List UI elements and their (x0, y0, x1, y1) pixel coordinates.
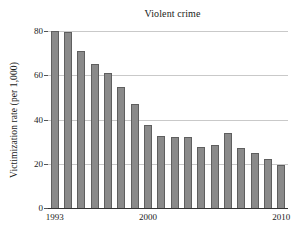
y-tick-label: 40 (8, 115, 48, 125)
bar (117, 87, 125, 208)
bar (91, 64, 99, 208)
bar (51, 31, 59, 208)
x-tick-label: 2000 (139, 212, 157, 222)
y-tick-label: 60 (8, 70, 48, 80)
x-tick-label: 2010 (272, 212, 290, 222)
y-tick-label: 80 (8, 26, 48, 36)
y-tick-label: 0 (8, 203, 48, 213)
x-tick-label: 1993 (46, 212, 64, 222)
bar-series (48, 31, 288, 208)
chart-figure: Violent crime Victimization rate (per 1,… (0, 0, 297, 242)
y-tick-label: 20 (8, 159, 48, 169)
x-axis-line (48, 208, 288, 209)
bar (184, 137, 192, 208)
bar (144, 125, 152, 208)
plot-area (48, 31, 288, 208)
bar (171, 137, 179, 208)
bar (197, 147, 205, 208)
bar (277, 165, 285, 208)
bar (64, 32, 72, 208)
x-axis-ticks: 199320002010 (48, 210, 288, 230)
bar (131, 104, 139, 208)
bar (157, 136, 165, 208)
y-axis-ticks: 020406080 (0, 31, 48, 208)
bar (104, 73, 112, 208)
bar (251, 153, 259, 208)
bar (211, 145, 219, 208)
chart-title: Violent crime (0, 8, 297, 19)
bar (224, 133, 232, 208)
bar (264, 159, 272, 208)
bar (77, 51, 85, 208)
bar (237, 148, 245, 208)
